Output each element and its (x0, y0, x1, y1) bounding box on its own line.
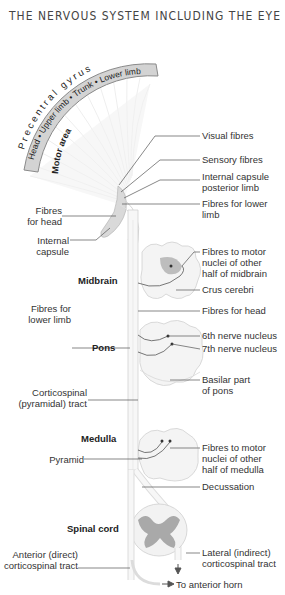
label-line: Fibres (27, 205, 62, 216)
label-line: (pyramidal) tract (18, 398, 87, 409)
label-anterior-corticospinal: Anterior (direct) corticospinal tract (4, 549, 78, 571)
label-motor-nuclei-midbrain: Fibres to motor nuclei of other half of … (202, 246, 267, 279)
nervous-system-diagram: Precentral gyrus Head • Upper limb • Tru… (0, 0, 285, 595)
label-line: of pons (202, 385, 250, 396)
label-line: nuclei of other (202, 257, 267, 268)
label-internal-capsule: Internal capsule (36, 235, 69, 257)
label-line: Internal (36, 235, 69, 246)
label-line: Basilar part (202, 374, 250, 385)
label-6th-nerve-nucleus: 6th nerve nucleus (202, 330, 277, 341)
label-line: Fibres to motor (202, 246, 267, 257)
label-lateral-corticospinal: Lateral (indirect) corticospinal tract (202, 547, 276, 569)
label-internal-capsule-posterior: Internal capsule posterior limb (202, 171, 269, 193)
label-line: corticospinal tract (4, 560, 78, 571)
label-spinal-cord: Spinal cord (67, 523, 119, 534)
label-line: Fibres to motor (202, 442, 266, 453)
label-pons: Pons (92, 342, 115, 353)
right-arrow-icon (162, 581, 174, 587)
label-line: lower limb (28, 314, 71, 325)
label-decussation: Decussation (202, 481, 254, 492)
label-line: Anterior (direct) (4, 549, 78, 560)
label-fibres-lower-limb-left: Fibres for lower limb (28, 303, 71, 325)
label-fibres-for-head-left: Fibres for head (27, 205, 62, 227)
label-line: half of midbrain (202, 268, 267, 279)
label-line: Corticospinal (18, 387, 87, 398)
label-line: limb (202, 209, 267, 220)
down-arrow-icon (175, 564, 181, 574)
label-line: Lateral (indirect) (202, 547, 276, 558)
label-anterior-horn: To anterior horn (176, 579, 243, 590)
label-fibres-for-head: Fibres for head (202, 305, 266, 316)
label-line: Internal capsule (202, 171, 269, 182)
label-motor-nuclei-medulla: Fibres to motor nuclei of other half of … (202, 442, 266, 475)
label-line: Fibres for lower (202, 198, 267, 209)
label-7th-nerve-nucleus: 7th nerve nucleus (202, 343, 277, 354)
label-fibres-lower-limb: Fibres for lower limb (202, 198, 267, 220)
label-line: corticospinal tract (202, 558, 276, 569)
label-pyramid: Pyramid (49, 454, 84, 465)
label-midbrain: Midbrain (78, 275, 118, 286)
label-medulla: Medulla (81, 433, 116, 444)
label-sensory-fibres: Sensory fibres (202, 154, 263, 165)
label-corticospinal-tract: Corticospinal (pyramidal) tract (18, 387, 87, 409)
label-line: Fibres for (28, 303, 71, 314)
label-line: capsule (36, 246, 69, 257)
label-basilar-pons: Basilar part of pons (202, 374, 250, 396)
label-crus-cerebri: Crus cerebri (202, 284, 254, 295)
label-line: half of medulla (202, 464, 266, 475)
medulla (138, 428, 198, 481)
label-visual-fibres: Visual fibres (202, 130, 254, 141)
label-line: nuclei of other (202, 453, 266, 464)
label-line: for head (27, 216, 62, 227)
label-line: posterior limb (202, 182, 269, 193)
